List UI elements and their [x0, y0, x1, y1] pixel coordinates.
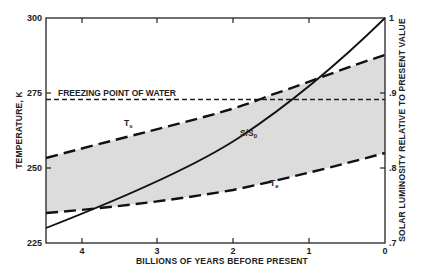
- x-tick-1: 1: [306, 246, 311, 256]
- y2-tick-07: .7: [389, 238, 397, 248]
- y2-tick-09: .9: [389, 88, 397, 98]
- x-tick-0: 0: [382, 246, 387, 256]
- y-tick-275: 275: [27, 88, 42, 98]
- chart: 300 275 250 225 1 .9 .8 .7 4 3 2 1 0 BIL…: [0, 0, 425, 279]
- bottom-ticks: [82, 238, 309, 243]
- y-tick-225: 225: [27, 238, 42, 248]
- ts-label: Ts: [124, 118, 133, 129]
- y-axis-title: TEMPERATURE, K: [14, 90, 24, 168]
- x-axis-title: BILLIONS OF YEARS BEFORE PRESENT: [136, 256, 309, 266]
- freezing-label: FREEZING POINT OF WATER: [58, 88, 176, 98]
- y-tick-300: 300: [27, 13, 42, 23]
- y2-axis-title: SOLAR LUMINOSITY RELATIVE TO PRESENT VAL…: [397, 18, 407, 242]
- y2-tick-1: 1: [389, 13, 394, 23]
- x-tick-4: 4: [79, 246, 84, 256]
- top-ticks: [82, 18, 309, 23]
- x-tick-2: 2: [230, 246, 235, 256]
- x-tick-3: 3: [154, 246, 159, 256]
- y2-tick-08: .8: [389, 163, 397, 173]
- shaded-band: [46, 55, 385, 213]
- y-tick-250: 250: [27, 163, 42, 173]
